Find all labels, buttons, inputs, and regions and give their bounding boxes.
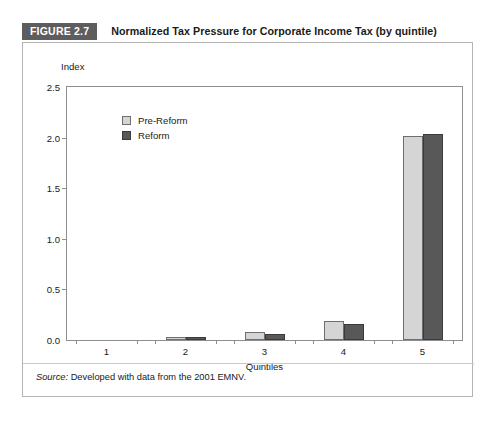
x-tick-mark (155, 340, 156, 344)
bar-pre-reform-q2 (166, 337, 186, 340)
bar-pre-reform-q5 (403, 136, 423, 340)
bar-reform-q4 (344, 324, 364, 340)
figure-header: FIGURE 2.7 Normalized Tax Pressure for C… (22, 22, 474, 40)
x-tick-mark (216, 340, 217, 344)
legend-label-reform: Reform (138, 130, 169, 141)
figure-page: FIGURE 2.7 Normalized Tax Pressure for C… (0, 0, 498, 422)
x-tick-mark (453, 340, 454, 344)
x-tick-label: 5 (420, 346, 425, 357)
x-tick-mark (137, 340, 138, 344)
y-tick-mark (62, 289, 67, 290)
x-tick-mark (295, 340, 296, 344)
source-note: Source: Developed with data from the 200… (36, 372, 246, 382)
figure-frame: Index 0.00.51.01.52.02.5 12345 Pre-Refor… (22, 42, 473, 397)
bar-pre-reform-q4 (324, 321, 344, 340)
legend-swatch-pre-reform-icon (122, 116, 131, 125)
y-tick-mark (62, 188, 67, 189)
chart-area: Index 0.00.51.01.52.02.5 12345 Pre-Refor… (23, 43, 474, 363)
x-tick-label: 2 (183, 346, 188, 357)
x-tick-label: 4 (341, 346, 346, 357)
x-tick-mark (234, 340, 235, 344)
x-tick-mark (392, 340, 393, 344)
legend-item-reform: Reform (122, 128, 188, 143)
bar-reform-q3 (265, 334, 285, 340)
x-tick-label: 3 (262, 346, 267, 357)
figure-number-badge: FIGURE 2.7 (22, 23, 97, 40)
legend-item-pre-reform: Pre-Reform (122, 113, 188, 128)
x-tick-mark (374, 340, 375, 344)
legend-swatch-reform-icon (122, 131, 131, 140)
bar-reform-q5 (423, 134, 443, 340)
x-tick-mark (313, 340, 314, 344)
y-tick-label: 2.5 (47, 82, 67, 93)
source-note-text: Developed with data from the 2001 EMNV. (68, 372, 246, 382)
bar-pre-reform-q3 (245, 332, 265, 340)
legend-label-pre-reform: Pre-Reform (138, 115, 188, 126)
source-note-label: Source: (36, 372, 68, 382)
figure-title: Normalized Tax Pressure for Corporate In… (111, 25, 437, 37)
x-tick-label: 1 (104, 346, 109, 357)
source-divider (23, 363, 474, 364)
bar-reform-q2 (186, 337, 206, 340)
y-tick-mark (62, 138, 67, 139)
chart-legend: Pre-Reform Reform (122, 113, 188, 143)
y-axis-label: Index (61, 61, 84, 72)
y-tick-label: 0.0 (47, 335, 67, 346)
x-tick-mark (76, 340, 77, 344)
plot-region: 0.00.51.01.52.02.5 12345 Pre-Reform Refo… (66, 86, 463, 341)
y-tick-mark (62, 239, 67, 240)
